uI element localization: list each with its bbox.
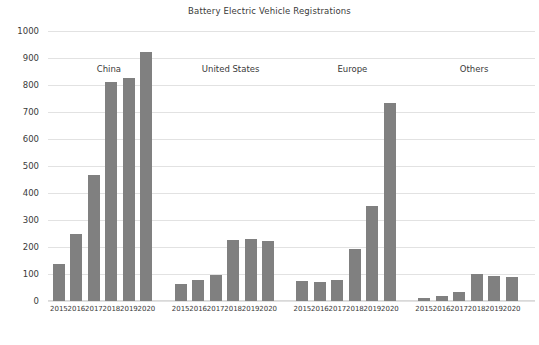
x-axis-tick-label: 2019	[364, 305, 382, 313]
x-axis-tick-label: 2015	[50, 305, 68, 313]
bar-group-label: United States	[170, 64, 292, 74]
bar-group-label: Others	[413, 64, 535, 74]
x-axis-group: 201520162017201820192020	[292, 303, 414, 321]
y-axis-tick-label: 300	[0, 215, 39, 225]
x-axis-tick-label: 2018	[346, 305, 364, 313]
bar[interactable]	[488, 276, 500, 301]
bar-group: China	[48, 31, 170, 301]
bar[interactable]	[331, 280, 343, 301]
bar[interactable]	[384, 103, 396, 301]
bar[interactable]	[70, 234, 82, 301]
x-axis-tick-label: 2015	[415, 305, 433, 313]
y-axis-tick-label: 100	[0, 269, 39, 279]
bar[interactable]	[140, 52, 152, 301]
bar[interactable]	[436, 296, 448, 301]
gridline	[48, 301, 535, 302]
x-axis-tick-label: 2017	[450, 305, 468, 313]
bar[interactable]	[296, 281, 308, 301]
x-axis-tick-label: 2020	[138, 305, 156, 313]
bar[interactable]	[210, 275, 222, 301]
bar[interactable]	[314, 282, 326, 301]
bar-group: Others	[413, 31, 535, 301]
x-axis-tick-label: 2019	[120, 305, 138, 313]
x-axis-tick-label: 2018	[103, 305, 121, 313]
x-axis-group: 201520162017201820192020	[413, 303, 535, 321]
bar[interactable]	[245, 239, 257, 301]
y-axis-tick-label: 500	[0, 161, 39, 171]
x-axis-tick-label: 2015	[172, 305, 190, 313]
y-axis-tick-label: 600	[0, 134, 39, 144]
y-axis-tick-label: 0	[0, 296, 39, 306]
y-axis-tick-label: 200	[0, 242, 39, 252]
x-axis-tick-label: 2016	[311, 305, 329, 313]
x-axis-tick-label: 2015	[294, 305, 312, 313]
bar[interactable]	[227, 240, 239, 301]
x-axis-tick-labels: 2015201620172018201920202015201620172018…	[48, 303, 535, 321]
bar[interactable]	[105, 82, 117, 301]
x-axis-tick-label: 2020	[503, 305, 521, 313]
bar[interactable]	[506, 277, 518, 301]
x-axis-tick-label: 2020	[259, 305, 277, 313]
y-axis-tick-label: 900	[0, 53, 39, 63]
x-axis-tick-label: 2019	[485, 305, 503, 313]
x-axis-tick-label: 2018	[468, 305, 486, 313]
bar[interactable]	[123, 78, 135, 301]
bar-groups: ChinaUnited StatesEuropeOthers	[48, 31, 535, 301]
bar[interactable]	[88, 175, 100, 301]
x-axis-tick-label: 2020	[381, 305, 399, 313]
x-axis-tick-label: 2016	[433, 305, 451, 313]
plot-area: 10009008007006005004003002001000 ChinaUn…	[48, 31, 535, 301]
y-axis-tick-label: 700	[0, 107, 39, 117]
x-axis-tick-label: 2018	[224, 305, 242, 313]
bar[interactable]	[262, 241, 274, 301]
bar[interactable]	[192, 280, 204, 301]
bar[interactable]	[366, 206, 378, 301]
bar[interactable]	[349, 249, 361, 301]
bar[interactable]	[53, 264, 65, 301]
x-axis-tick-label: 2016	[68, 305, 86, 313]
x-axis-tick-label: 2017	[207, 305, 225, 313]
chart-title: Battery Electric Vehicle Registrations	[0, 6, 539, 16]
y-axis-tick-label: 800	[0, 80, 39, 90]
bar[interactable]	[175, 284, 187, 301]
bar-group-label: Europe	[292, 64, 414, 74]
x-axis-group: 201520162017201820192020	[170, 303, 292, 321]
y-axis-tick-label: 1000	[0, 26, 39, 36]
bar[interactable]	[418, 298, 430, 301]
y-axis-tick-label: 400	[0, 188, 39, 198]
bar-group-label: China	[48, 64, 170, 74]
x-axis-tick-label: 2017	[85, 305, 103, 313]
bar-group: Europe	[292, 31, 414, 301]
x-axis-tick-label: 2019	[242, 305, 260, 313]
bar-group: United States	[170, 31, 292, 301]
bar[interactable]	[453, 292, 465, 301]
x-axis-tick-label: 2016	[189, 305, 207, 313]
x-axis-tick-label: 2017	[329, 305, 347, 313]
bar[interactable]	[471, 274, 483, 301]
x-axis-group: 201520162017201820192020	[48, 303, 170, 321]
bar-chart: Battery Electric Vehicle Registrations 1…	[0, 0, 539, 345]
